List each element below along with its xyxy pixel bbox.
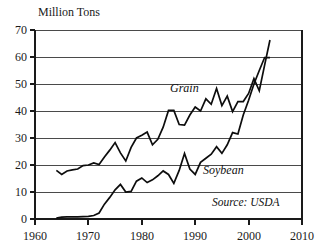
- x-tick-label-1990: 1990: [183, 229, 207, 243]
- y-tick-label-10: 10: [15, 185, 27, 199]
- x-tick-label-1970: 1970: [76, 229, 100, 243]
- y-tick-label-70: 70: [15, 23, 27, 37]
- y-tick-label-20: 20: [15, 158, 27, 172]
- x-tick-label-1960: 1960: [23, 229, 47, 243]
- chart-container: Million Tons 70 60: [0, 0, 327, 250]
- y-axis-title: Million Tons: [38, 5, 100, 19]
- x-tick-label-2000: 2000: [237, 229, 261, 243]
- million-tons-line-chart: Million Tons 70 60: [0, 0, 327, 250]
- y-tick-label-60: 60: [15, 50, 27, 64]
- y-tick-label-50: 50: [15, 77, 27, 91]
- grain-series-label: Grain: [170, 81, 199, 95]
- x-tick-label-2010: 2010: [290, 229, 314, 243]
- x-tick-label-1980: 1980: [130, 229, 154, 243]
- y-tick-label-0: 0: [21, 212, 27, 226]
- source-attribution-label: Source: USDA: [212, 196, 281, 208]
- soybean-series-label: Soybean: [203, 163, 244, 177]
- y-tick-label-40: 40: [15, 104, 27, 118]
- y-tick-label-30: 30: [15, 131, 27, 145]
